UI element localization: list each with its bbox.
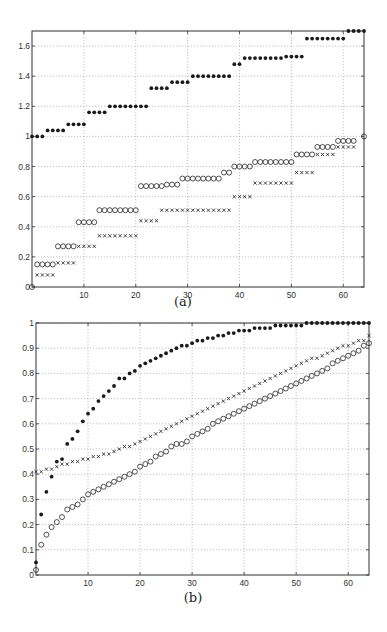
y-tick-label: 0.1 xyxy=(22,545,34,555)
y-tick-label: 0.8 xyxy=(18,162,30,172)
y-tick-label: 0.5 xyxy=(22,444,34,454)
x-tick-label: 40 xyxy=(235,290,245,300)
y-tick-label: 0.2 xyxy=(18,252,30,262)
axes-frame xyxy=(32,31,364,287)
x-tick-label: 50 xyxy=(287,290,297,300)
y-tick-label: 1.4 xyxy=(18,71,30,81)
y-tick-label: 0.6 xyxy=(22,419,34,429)
y-tick-label: 1 xyxy=(29,318,34,328)
y-tick-label: 0.7 xyxy=(22,394,34,404)
y-tick-label: 1.2 xyxy=(18,101,30,111)
y-tick-label: 1 xyxy=(25,131,30,141)
x-tick-label: 20 xyxy=(135,578,145,588)
y-tick-label: 0.8 xyxy=(22,368,34,378)
series-star xyxy=(30,29,366,138)
x-tick-label: 30 xyxy=(187,578,197,588)
y-tick-label: 0.2 xyxy=(22,520,34,530)
y-tick-label: 0.6 xyxy=(18,192,30,202)
caption-b: (b) xyxy=(163,590,223,605)
chart-a-plot: 10203040506000.20.40.60.811.21.41.6 xyxy=(18,29,366,300)
y-tick-label: 1.6 xyxy=(18,41,30,51)
x-tick-label: 10 xyxy=(79,290,89,300)
y-tick-label: 0.4 xyxy=(18,222,30,232)
series-circle xyxy=(30,134,367,290)
x-tick-label: 40 xyxy=(239,578,249,588)
caption-a: (a) xyxy=(153,294,213,309)
ticks: 10203040506000.20.40.60.811.21.41.6 xyxy=(18,31,364,300)
x-tick-label: 60 xyxy=(343,578,353,588)
series-cross xyxy=(34,334,370,473)
y-tick-label: 0.4 xyxy=(22,469,34,479)
x-tick-label: 60 xyxy=(339,290,349,300)
x-tick-label: 50 xyxy=(291,578,301,588)
grid xyxy=(32,31,364,287)
x-tick-label: 10 xyxy=(83,578,93,588)
series-circle xyxy=(34,341,372,573)
y-tick-label: 0.9 xyxy=(22,343,34,353)
figure: 10203040506000.20.40.60.811.21.41.6 1020… xyxy=(0,0,387,632)
grid xyxy=(36,323,369,575)
x-tick-label: 20 xyxy=(131,290,141,300)
y-tick-label: 0 xyxy=(29,570,34,580)
y-tick-label: 0.3 xyxy=(22,494,34,504)
series-star xyxy=(34,321,371,564)
chart-b-plot: 10203040506000.10.20.30.40.50.60.70.80.9… xyxy=(22,318,371,588)
